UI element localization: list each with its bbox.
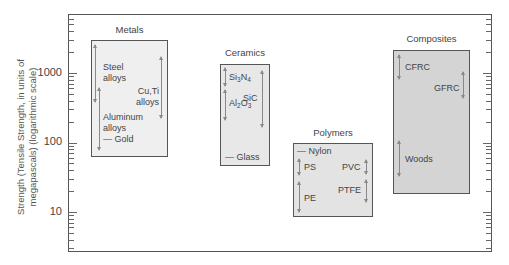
y-tick-right — [486, 191, 492, 192]
y-tick-left — [68, 143, 77, 144]
y-tick-label-1000: 1000 — [32, 66, 62, 78]
y-tick-left — [68, 101, 74, 102]
label-pe: PE — [304, 193, 316, 204]
y-tick-right — [486, 19, 492, 20]
range-arrow-aluminum — [99, 88, 100, 150]
y-tick-right — [486, 158, 492, 159]
y-tick-left — [68, 215, 74, 216]
range-arrow-steel — [95, 45, 96, 102]
y-tick-left — [68, 170, 74, 171]
y-tick-right — [483, 73, 492, 74]
y-tick-right — [486, 31, 492, 32]
y-tick-right — [486, 149, 492, 150]
y-tick-left — [68, 248, 74, 249]
range-arrow-cfrc — [399, 55, 400, 79]
y-tick-right — [486, 109, 492, 110]
y-tick-right — [486, 84, 492, 85]
y-tick-left — [68, 233, 74, 234]
range-arrow-ptfe — [366, 180, 367, 202]
label-ps: PS — [304, 162, 316, 173]
y-tick-right — [486, 219, 492, 220]
y-tick-right — [486, 122, 492, 123]
y-tick-left — [68, 40, 74, 41]
y-tick-left — [68, 146, 74, 147]
label-si3n4: Si3N4 — [229, 72, 251, 85]
y-tick-left — [68, 80, 74, 81]
range-arrow-al2o3 — [225, 90, 226, 120]
y-tick-right — [486, 101, 492, 102]
y-tick-right — [486, 76, 492, 77]
y-tick-right — [486, 52, 492, 53]
group-title-polymers: Polymers — [293, 127, 373, 138]
y-tick-right — [486, 80, 492, 81]
group-title-metals: Metals — [91, 24, 168, 35]
y-tick-left — [68, 94, 74, 95]
y-tick-left — [68, 153, 74, 154]
group-title-ceramics: Ceramics — [220, 47, 270, 58]
y-tick-left — [68, 76, 74, 77]
y-tick-left — [68, 163, 74, 164]
label-glass: — Glass — [225, 152, 260, 163]
label-cfrc: CFRC — [405, 62, 430, 73]
range-arrow-woods — [399, 141, 400, 176]
y-tick-left — [68, 24, 74, 25]
y-tick-left — [68, 212, 77, 213]
y-tick-left — [68, 191, 74, 192]
label-pvc: PVC — [342, 162, 361, 173]
y-tick-left — [68, 109, 74, 110]
y-tick-left — [68, 219, 74, 220]
y-tick-left — [68, 158, 74, 159]
range-arrow-si3n4 — [225, 68, 226, 86]
group-title-composites: Composites — [393, 33, 470, 44]
y-tick-left — [68, 88, 74, 89]
label-cuti-alloys: Cu,Tialloys — [136, 86, 159, 108]
y-tick-right — [486, 233, 492, 234]
y-tick-left — [68, 19, 74, 20]
label-gold: — Gold — [103, 134, 134, 145]
y-tick-right — [486, 94, 492, 95]
label-steel-alloys: Steelalloys — [103, 62, 126, 84]
y-tick-left — [68, 179, 74, 180]
range-arrow-cuti — [161, 57, 162, 118]
label-sic: SiC — [243, 93, 258, 104]
y-tick-right — [486, 146, 492, 147]
y-tick-label-100: 100 — [32, 135, 62, 147]
y-tick-right — [486, 24, 492, 25]
y-tick-right — [483, 143, 492, 144]
y-tick-right — [486, 170, 492, 171]
y-tick-right — [483, 212, 492, 213]
y-tick-left — [68, 227, 74, 228]
range-arrow-ps — [299, 159, 300, 175]
range-arrow-gfrc — [463, 72, 464, 98]
y-tick-right — [486, 227, 492, 228]
range-arrow-pvc — [366, 160, 367, 174]
y-tick-right — [486, 223, 492, 224]
y-tick-right — [486, 248, 492, 249]
y-tick-left — [68, 122, 74, 123]
label-aluminum-alloys: Aluminumalloys — [103, 112, 143, 134]
y-tick-left — [68, 149, 74, 150]
y-tick-left — [68, 84, 74, 85]
y-tick-left — [68, 31, 74, 32]
y-tick-right — [486, 88, 492, 89]
y-tick-right — [486, 179, 492, 180]
y-tick-left — [68, 73, 77, 74]
y-tick-right — [486, 40, 492, 41]
y-tick-right — [486, 153, 492, 154]
label-gfrc: GFRC — [434, 83, 460, 94]
y-tick-left — [68, 223, 74, 224]
y-tick-label-10: 10 — [32, 205, 62, 217]
y-tick-right — [486, 163, 492, 164]
y-tick-right — [486, 240, 492, 241]
label-nylon: — Nylon — [297, 146, 332, 157]
y-tick-left — [68, 52, 74, 53]
label-woods: Woods — [405, 154, 433, 165]
y-tick-right — [486, 215, 492, 216]
range-arrow-sic — [262, 71, 263, 127]
label-ptfe: PTFE — [338, 185, 361, 196]
range-arrow-pe — [299, 182, 300, 212]
y-tick-left — [68, 240, 74, 241]
